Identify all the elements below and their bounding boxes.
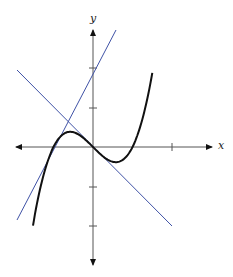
y-axis-label: y [90,12,96,25]
x-axis-label: x [218,139,224,152]
graph [0,0,233,277]
x-axis [16,143,212,151]
tangent-line-left [17,30,116,220]
